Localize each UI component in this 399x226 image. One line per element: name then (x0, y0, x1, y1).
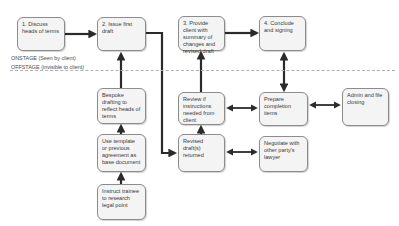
node-label: 1. Discuss heads of terms (22, 21, 59, 34)
node-label: Revised draft(s) returned (183, 138, 204, 158)
node-label: Prepare completion items (264, 96, 291, 116)
node-issue-first-draft: 2. Issue first draft (97, 17, 146, 51)
stage-divider-line (10, 70, 395, 71)
node-negotiate-other-lawyer: Negotiate with other party's lawyer (259, 136, 308, 172)
node-bespoke-drafting: Bespoke drafting to reflect heads of ter… (97, 88, 146, 124)
node-admin-file-closing: Admin and file closing (342, 88, 389, 126)
node-revised-drafts-returned: Revised draft(s) returned (178, 134, 225, 172)
node-label: Review if instructions needed from clien… (183, 96, 214, 123)
node-provide-client-summary: 3. Provide client with summary of change… (178, 16, 225, 51)
node-label: 3. Provide client with summary of change… (183, 20, 215, 54)
node-label: 2. Issue first draft (102, 21, 132, 34)
onstage-label: ONSTAGE (Seen by client) (11, 55, 76, 61)
node-label: Use template or previous agreement as ba… (102, 138, 140, 165)
arrow-issue-to-revised (146, 33, 175, 153)
node-conclude-and-signing: 4. Conclude and signing (259, 16, 306, 51)
offstage-label: OFFSTAGE (invisible to client) (11, 64, 84, 70)
node-label: Admin and file closing (347, 92, 382, 105)
node-review-instructions: Review if instructions needed from clien… (178, 92, 225, 125)
node-use-template: Use template or previous agreement as ba… (97, 134, 146, 172)
node-instruct-trainee: Instruct trainee to research legal point (97, 184, 146, 220)
node-label: 4. Conclude and signing (264, 20, 294, 33)
node-discuss-heads-of-terms: 1. Discuss heads of terms (17, 17, 65, 51)
node-prepare-completion-items: Prepare completion items (259, 92, 308, 126)
node-label: Instruct trainee to research legal point (102, 188, 139, 208)
node-label: Negotiate with other party's lawyer (264, 140, 299, 160)
node-label: Bespoke drafting to reflect heads of ter… (102, 92, 140, 119)
